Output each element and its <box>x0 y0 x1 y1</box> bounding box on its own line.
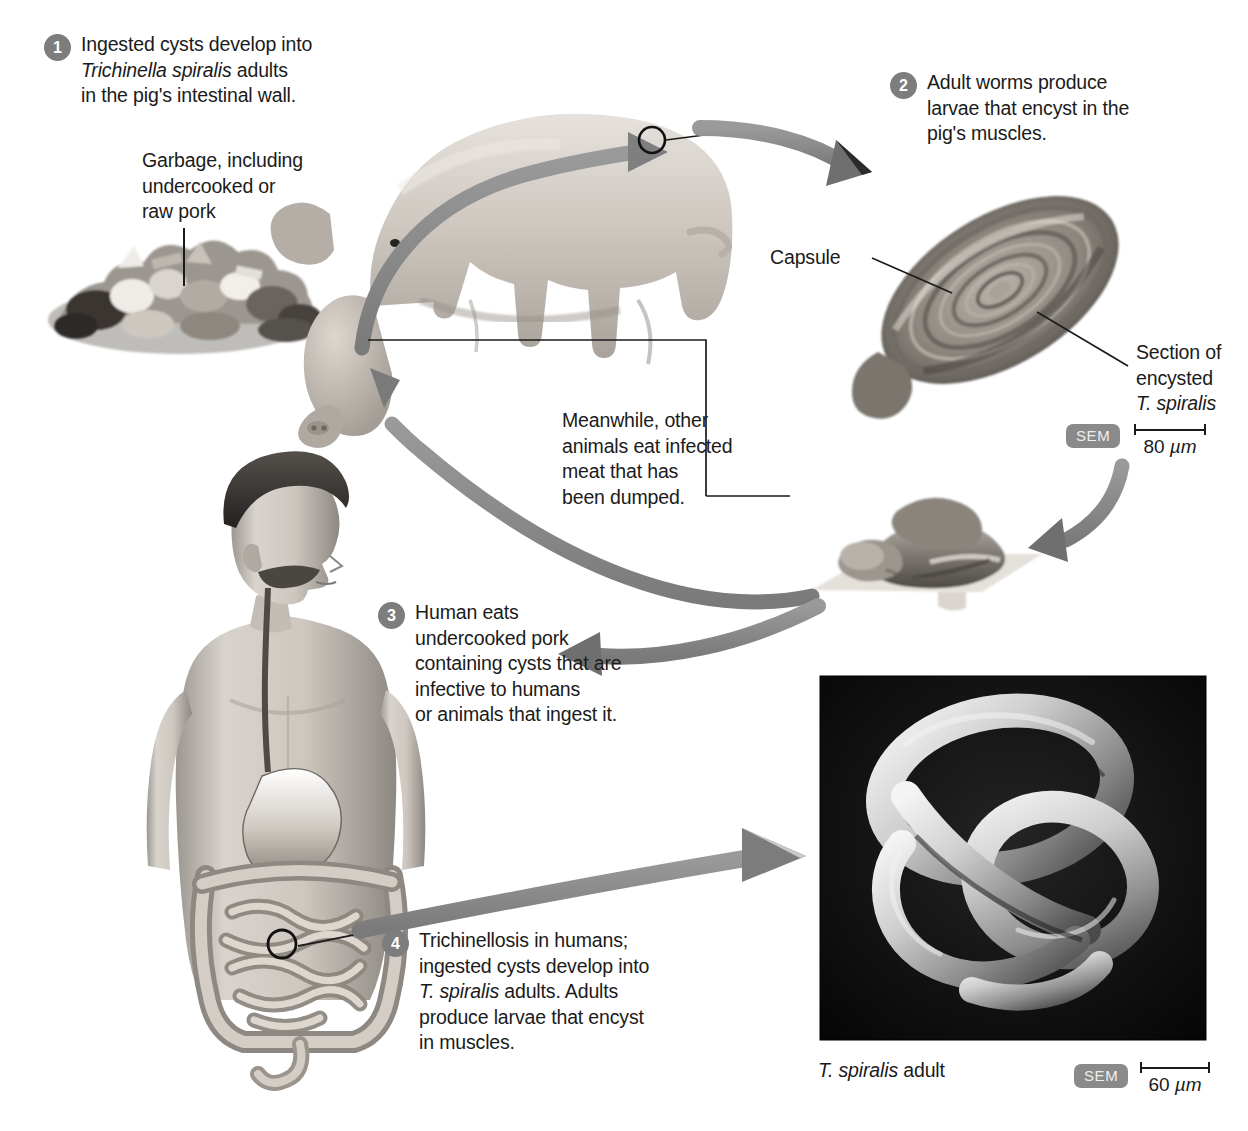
step-4-line2: ingested cysts develop into <box>419 955 649 977</box>
scale-unit-worm: µm <box>1175 1074 1202 1095</box>
step-1-line1: Ingested cysts develop into <box>81 33 312 55</box>
scale-bar-line-cyst <box>1134 424 1206 435</box>
adult-worm-sem-panel <box>820 676 1206 1040</box>
figure-canvas: 1 Ingested cysts develop intoTrichinella… <box>0 0 1248 1131</box>
capsule-label: Capsule <box>770 245 841 271</box>
adult-caption-species: T. spiralis <box>818 1059 898 1081</box>
step-4-line1: Trichinellosis in humans; <box>419 929 628 951</box>
step-2: 2 Adult worms produce larvae that encyst… <box>890 70 1190 147</box>
step-1-species: Trichinella spiralis <box>81 59 232 81</box>
adult-worm-caption: T. spiralis adult <box>818 1058 945 1084</box>
scale-bar-label-worm: 60 µm <box>1140 1074 1210 1096</box>
section-line2: encysted <box>1136 367 1213 389</box>
step-2-text: Adult worms produce larvae that encyst i… <box>927 70 1129 147</box>
step-4-badge: 4 <box>382 930 409 957</box>
step-1-line3: in the pig's intestinal wall. <box>81 84 296 106</box>
step-4: 4 Trichinellosis in humans;ingested cyst… <box>382 928 692 1056</box>
step-4-after-species: adults. Adults <box>499 980 618 1002</box>
garbage-heap-photo <box>48 240 322 354</box>
sem-badge-cyst: SEM <box>1066 424 1120 448</box>
meanwhile-label: Meanwhile, other animals eat infected me… <box>562 408 812 510</box>
adult-caption-rest: adult <box>898 1059 945 1081</box>
step-3-text: Human eats undercooked pork containing c… <box>415 600 622 728</box>
arrow-cyst-to-meat <box>1028 466 1122 562</box>
step-4-species: T. spiralis <box>419 980 499 1002</box>
raw-meat-photo <box>812 498 1042 611</box>
step-4-text: Trichinellosis in humans;ingested cysts … <box>419 928 649 1056</box>
step-3-badge: 3 <box>378 602 405 629</box>
garbage-label: Garbage, including undercooked or raw po… <box>142 148 382 225</box>
step-4-line4: produce larvae that encyst <box>419 1006 644 1028</box>
step-2-badge: 2 <box>890 72 917 99</box>
scale-bar-label-cyst: 80 µm <box>1134 436 1206 458</box>
scale-bar-line-worm <box>1140 1062 1210 1073</box>
step-1-badge: 1 <box>44 34 71 61</box>
section-encysted-label: Section ofencystedT. spiralis <box>1136 340 1248 417</box>
scale-bar-cyst: 80 µm <box>1134 424 1206 458</box>
scale-value-cyst: 80 <box>1143 436 1164 457</box>
scale-value-worm: 60 <box>1148 1074 1169 1095</box>
section-line1: Section of <box>1136 341 1221 363</box>
section-species: T. spiralis <box>1136 392 1216 414</box>
step-4-line5: in muscles. <box>419 1031 515 1053</box>
scale-bar-worm: 60 µm <box>1140 1062 1210 1096</box>
step-3: 3 Human eats undercooked pork containing… <box>378 600 668 728</box>
arrow-pig-to-cyst <box>700 128 872 186</box>
step-1-text: Ingested cysts develop intoTrichinella s… <box>81 32 312 109</box>
encysted-cyst-micrograph <box>849 157 1151 422</box>
sem-badge-worm: SEM <box>1074 1064 1128 1088</box>
step-1: 1 Ingested cysts develop intoTrichinella… <box>44 32 344 109</box>
step-1-after-species: adults <box>232 59 288 81</box>
garbage-leader-line <box>183 228 185 286</box>
scale-unit-cyst: µm <box>1170 436 1197 457</box>
